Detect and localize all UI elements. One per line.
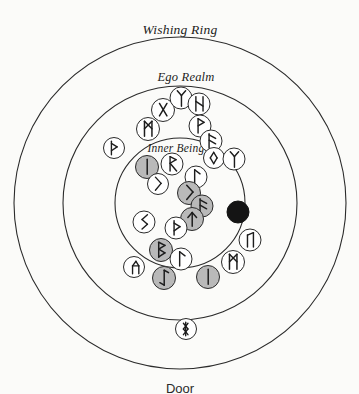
rune-glyph-ehwaz-right	[227, 253, 239, 270]
rune-glyph-thurisaz	[108, 140, 119, 156]
rune-glyph-perthro	[152, 176, 163, 192]
rune-token-hagalaz[interactable]	[188, 93, 211, 116]
rune-token-perthro[interactable]	[147, 173, 169, 195]
rune-glyph-thurisaz-mid	[170, 220, 182, 237]
ring-label-ego-realm: Ego Realm	[158, 70, 215, 85]
rune-diagram-canvas: Wishing Ring Ego Realm Inner Being Door	[0, 0, 359, 394]
rune-glyph-algiz	[228, 151, 240, 168]
rune-token-algiz[interactable]	[223, 148, 246, 171]
rune-token-othala[interactable]	[123, 256, 145, 278]
rune-glyph-isa-low-gray	[202, 268, 214, 285]
rune-token-isa-low-gray[interactable]	[196, 265, 220, 289]
ring-label-wishing-ring: Wishing Ring	[143, 22, 218, 38]
rune-token-thurisaz[interactable]	[103, 137, 125, 159]
rune-token-raido[interactable]	[161, 153, 184, 176]
rune-glyph-hagalaz	[193, 96, 205, 113]
rune-token-laguz-low[interactable]	[170, 248, 193, 271]
ring-ego-realm	[63, 86, 297, 320]
rune-glyph-berkana-gray	[155, 241, 167, 258]
rune-glyph-eihwaz-gray	[158, 269, 170, 286]
rune-token-thurisaz-mid[interactable]	[165, 217, 188, 240]
ring-label-inner-being: Inner Being	[148, 142, 205, 154]
rune-token-ehwaz-left[interactable]	[136, 117, 160, 141]
rune-glyph-laguz-low	[175, 251, 187, 268]
rune-token-blank-rune[interactable]	[227, 201, 250, 224]
outside-label-door: Door	[166, 381, 194, 394]
rune-token-ehwaz-right[interactable]	[221, 250, 245, 274]
rune-glyph-isa-gray	[141, 158, 153, 175]
rune-token-eihwaz-gray[interactable]	[152, 266, 176, 290]
rune-glyph-tiwaz-gray	[186, 210, 198, 227]
rune-glyph-dagaz	[180, 321, 191, 337]
rune-glyph-ingwaz	[208, 150, 219, 166]
rune-glyph-ehwaz-left	[142, 120, 154, 137]
rune-glyph-uruz	[244, 232, 256, 249]
rune-token-sowilo[interactable]	[133, 211, 156, 234]
rune-glyph-sowilo	[138, 214, 150, 231]
rune-token-uruz[interactable]	[239, 229, 262, 252]
rune-glyph-elhaz	[175, 90, 187, 107]
rune-glyph-gebo	[157, 101, 169, 118]
rune-glyph-raido	[166, 156, 178, 173]
rune-glyph-othala	[128, 259, 139, 275]
rune-token-dagaz[interactable]	[175, 318, 197, 340]
